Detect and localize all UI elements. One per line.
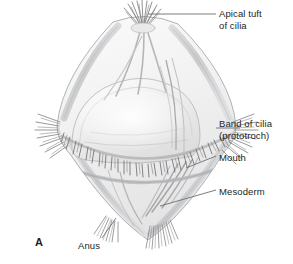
label-mesoderm: Mesoderm [219,186,265,198]
label-band-of-cilia: Band of cilia(prototroch) [219,118,272,141]
figure-panel: Apical tuftof cilia Band of cilia(protot… [0,0,293,264]
label-anus: Anus [78,240,100,252]
label-band-of-cilia-line2: (prototroch) [219,130,269,141]
label-band-of-cilia-line1: Band of cilia [219,118,272,129]
label-apical-tuft-line2: of cilia [219,20,247,31]
panel-letter: A [35,236,43,248]
label-apical-tuft-line1: Apical tuft [219,8,262,19]
label-mouth: Mouth [219,152,246,164]
label-apical-tuft-of-cilia: Apical tuftof cilia [219,8,262,31]
